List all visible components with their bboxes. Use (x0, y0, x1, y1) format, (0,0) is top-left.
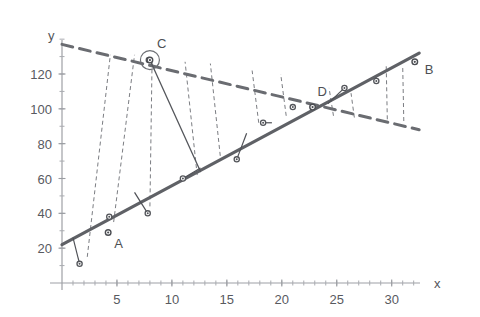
y-tick-label: 60 (38, 172, 52, 187)
data-point-center (343, 87, 345, 89)
x-axis-label: x (434, 276, 441, 291)
x-tick-label: 20 (275, 292, 289, 307)
labeled-point-center-b (414, 61, 416, 63)
x-tick-label: 30 (384, 292, 398, 307)
y-tick-label: 40 (38, 206, 52, 221)
y-tick-label: 20 (38, 241, 52, 256)
data-point-center (375, 80, 377, 82)
data-point-center (236, 158, 238, 160)
data-point-center (182, 178, 184, 180)
point-label-b: B (425, 62, 434, 77)
labeled-point-center-c (149, 59, 151, 61)
labeled-point-center-d (311, 106, 313, 108)
data-point-center (262, 122, 264, 124)
data-point-center (292, 106, 294, 108)
x-tick-label: 25 (330, 292, 344, 307)
y-tick-label: 80 (38, 137, 52, 152)
data-point-center (79, 263, 81, 265)
y-axis-label: y (48, 28, 55, 43)
data-point-center (108, 216, 110, 218)
x-tick-label: 5 (113, 292, 120, 307)
x-tick-label: 10 (165, 292, 179, 307)
scatter-plot-svg: 51015202530 20406080100120 ABCD y x (0, 0, 480, 317)
point-label-a: A (114, 236, 123, 251)
labeled-point-center-a (107, 231, 109, 233)
point-label-d: D (318, 84, 327, 99)
chart-figure: 51015202530 20406080100120 ABCD y x (0, 0, 480, 317)
y-tick-label: 120 (30, 67, 52, 82)
x-tick-label: 15 (220, 292, 234, 307)
y-tick-label: 100 (30, 102, 52, 117)
point-label-c: C (157, 36, 166, 51)
data-point-center (147, 212, 149, 214)
